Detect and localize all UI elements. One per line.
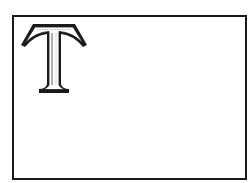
letter-t-icon <box>19 21 89 95</box>
letter-text: T <box>14 17 15 18</box>
letter-frame: T <box>12 15 247 180</box>
